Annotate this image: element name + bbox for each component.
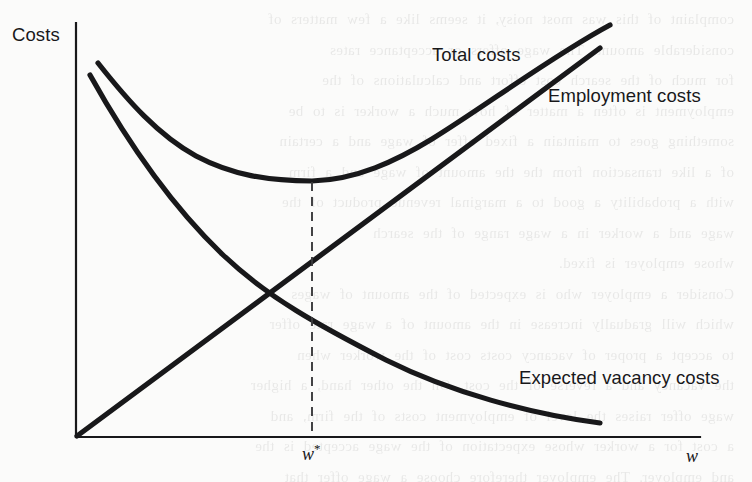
optimum-wage-asterisk: * <box>314 441 320 456</box>
series-total-costs-curve <box>98 25 610 181</box>
x-axis-label: w <box>686 446 698 467</box>
series-label-expected-vacancy-costs: Expected vacancy costs <box>519 367 720 389</box>
optimum-wage-base: w <box>302 444 314 464</box>
optimum-wage-label: w* <box>302 444 321 465</box>
series-label-employment-costs: Employment costs <box>548 85 701 107</box>
y-axis-label: Costs <box>12 24 60 46</box>
costs-vs-wage-chart <box>0 0 752 482</box>
figure-page: complaint of this was most noisy, it see… <box>0 0 752 482</box>
series-label-total-costs: Total costs <box>432 44 521 66</box>
